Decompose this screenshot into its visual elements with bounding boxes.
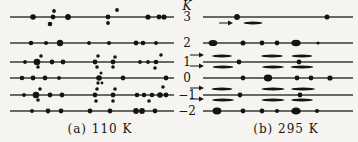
satellite-spot (95, 87, 99, 91)
bragg-spot (241, 109, 246, 114)
bragg-spot (291, 107, 301, 114)
bragg-spot (96, 75, 102, 81)
bragg-spot (111, 93, 116, 98)
bragg-spot (50, 60, 55, 65)
arrow-head (199, 85, 204, 90)
bragg-spot (157, 15, 162, 20)
diffuse-streak (213, 66, 234, 69)
bragg-spot (153, 109, 158, 114)
row-label-k3: 3 (175, 10, 199, 24)
row-label-k0: 0 (175, 71, 199, 85)
bragg-spot (61, 60, 66, 65)
bragg-spot (87, 41, 91, 45)
bragg-spot (298, 93, 303, 98)
bragg-spot (142, 93, 147, 98)
bragg-spot (138, 60, 142, 64)
bragg-spot (316, 41, 319, 44)
diffuse-streak (262, 66, 284, 69)
bragg-spot (43, 76, 48, 81)
bragg-spot (237, 60, 242, 65)
satellite-spot (113, 87, 117, 91)
bragg-spot (238, 93, 243, 98)
satellite-spot (161, 85, 165, 89)
bragg-spot (88, 109, 93, 114)
bragg-spot (241, 76, 246, 81)
diffuse-streak (291, 99, 313, 102)
satellite-spot (95, 65, 99, 69)
diffuse-streak (262, 99, 285, 102)
bragg-spot (241, 41, 246, 46)
bragg-spot (275, 41, 280, 46)
satellite-spot (113, 55, 117, 59)
arrow-head (199, 63, 204, 68)
bragg-spot (44, 41, 48, 45)
bragg-spot (141, 41, 146, 46)
bragg-spot (65, 14, 71, 20)
satellite-spot (159, 53, 163, 57)
row-label-k1: 1 (175, 55, 199, 69)
caption-panel-b: (b) 295 K (226, 122, 346, 137)
bragg-spot (107, 41, 111, 45)
satellite-spot (100, 72, 103, 75)
satellite-spot (111, 99, 115, 103)
satellite-spot (153, 66, 157, 70)
satellite-spot (39, 54, 43, 58)
bragg-spot (106, 15, 111, 20)
diffuse-streak (244, 22, 263, 25)
row-label-km2: −2 (175, 104, 199, 118)
bragg-spot (121, 76, 126, 81)
diffuse-streak (291, 88, 315, 91)
bragg-spot (59, 109, 64, 114)
bragg-spot (48, 93, 53, 98)
bragg-spot (20, 76, 25, 81)
arrow-head (199, 96, 204, 101)
diffuse-streak (292, 55, 313, 58)
diffuse-streak (291, 66, 314, 69)
bragg-spot (93, 93, 98, 98)
arrow-head (228, 20, 233, 25)
satellite-spot (48, 22, 53, 27)
bragg-spot (135, 93, 140, 98)
bragg-spot (33, 92, 40, 99)
bragg-spot (146, 60, 150, 64)
bragg-spot (139, 108, 145, 114)
arrow-head (199, 52, 204, 57)
satellite-spot (36, 65, 40, 69)
bragg-spot (60, 93, 65, 98)
row-label-km1: −1 (175, 88, 199, 102)
row-label-k2: 2 (175, 36, 199, 50)
bragg-spot (234, 14, 240, 20)
diffuse-streak (262, 88, 285, 91)
satellite-spot (52, 9, 56, 13)
bragg-spot (133, 108, 139, 114)
bragg-spot (161, 14, 166, 19)
bragg-spot (30, 14, 36, 20)
satellite-spot (36, 98, 40, 102)
bragg-spot (309, 76, 314, 81)
bragg-spot (108, 109, 113, 114)
figure-diffuse-scattering-diagram: K 3 2 1 0 −1 −2 (a) 110 K (b) 295 K (0, 0, 358, 142)
arrow-icon (219, 20, 233, 25)
bragg-spot (134, 41, 139, 46)
bragg-spot (93, 60, 98, 65)
bragg-spot (154, 60, 159, 65)
bragg-spot (111, 60, 116, 65)
bragg-spot (213, 108, 222, 115)
bragg-spot (34, 59, 41, 66)
bragg-spot (315, 109, 319, 113)
caption-panel-a: (a) 110 K (40, 122, 160, 137)
satellite-spot (101, 82, 104, 85)
bragg-spot (154, 41, 158, 45)
bragg-spot (57, 40, 63, 46)
bragg-spot (164, 93, 169, 98)
satellite-spot (96, 54, 100, 58)
bragg-spot (327, 75, 332, 80)
bragg-spot (264, 75, 272, 82)
bragg-spot (291, 40, 300, 47)
bragg-spot (295, 76, 300, 81)
satellite-spot (94, 99, 98, 103)
bragg-spot (164, 76, 169, 81)
bragg-spot (157, 92, 163, 98)
diffuse-streak (212, 88, 233, 91)
bragg-spot (260, 109, 265, 114)
